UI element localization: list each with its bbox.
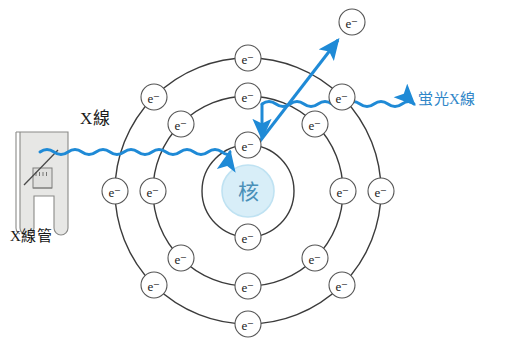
svg-text:e⁻: e⁻ — [147, 185, 160, 200]
svg-text:e⁻: e⁻ — [337, 185, 350, 200]
svg-text:e⁻: e⁻ — [148, 91, 161, 106]
fluorescent-xray-label: 蛍光X線 — [418, 92, 476, 107]
ejected-electron: e⁻ — [339, 9, 365, 35]
svg-text:e⁻: e⁻ — [336, 279, 349, 294]
svg-text:e⁻: e⁻ — [109, 185, 122, 200]
electron: e⁻ — [235, 45, 261, 71]
svg-text:e⁻: e⁻ — [148, 279, 161, 294]
electron: e⁻ — [102, 178, 128, 204]
electron: e⁻ — [168, 245, 194, 271]
svg-text:e⁻: e⁻ — [242, 318, 255, 333]
electron: e⁻ — [235, 224, 261, 250]
svg-text:e⁻: e⁻ — [242, 139, 255, 154]
svg-text:e⁻: e⁻ — [346, 16, 359, 31]
electron: e⁻ — [235, 132, 261, 158]
electron: e⁻ — [368, 178, 394, 204]
svg-text:e⁻: e⁻ — [336, 91, 349, 106]
svg-text:e⁻: e⁻ — [175, 118, 188, 133]
svg-text:e⁻: e⁻ — [242, 280, 255, 295]
electron: e⁻ — [141, 272, 167, 298]
electron: e⁻ — [140, 178, 166, 204]
electron: e⁻ — [235, 273, 261, 299]
electron: e⁻ — [302, 111, 328, 137]
incident-xray-label: X線 — [80, 110, 110, 127]
electron: e⁻ — [235, 83, 261, 109]
nucleus-label: 核 — [238, 180, 259, 204]
svg-text:e⁻: e⁻ — [309, 118, 322, 133]
svg-text:e⁻: e⁻ — [242, 231, 255, 246]
electron: e⁻ — [329, 84, 355, 110]
x-ray-tube — [16, 132, 68, 235]
figure-canvas: 核 e⁻ e⁻ e⁻ — [0, 0, 508, 360]
electron: e⁻ — [141, 84, 167, 110]
electron: e⁻ — [168, 111, 194, 137]
svg-text:e⁻: e⁻ — [242, 90, 255, 105]
svg-text:e⁻: e⁻ — [375, 185, 388, 200]
electron: e⁻ — [235, 311, 261, 337]
electron: e⁻ — [329, 272, 355, 298]
tube-filament-housing — [33, 168, 52, 188]
svg-text:e⁻: e⁻ — [242, 52, 255, 67]
atom-diagram-svg: 核 e⁻ e⁻ e⁻ — [0, 0, 508, 360]
svg-text:e⁻: e⁻ — [309, 252, 322, 267]
nucleus: 核 — [222, 165, 274, 217]
svg-text:e⁻: e⁻ — [175, 252, 188, 267]
electron: e⁻ — [330, 178, 356, 204]
tube-left-wall — [16, 132, 20, 234]
electron: e⁻ — [302, 245, 328, 271]
x-ray-tube-label: X線管 — [10, 229, 52, 244]
